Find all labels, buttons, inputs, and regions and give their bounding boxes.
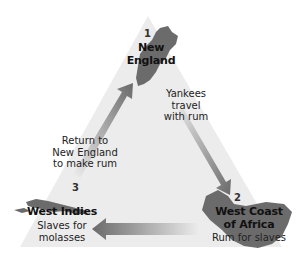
node-3-number: 3 — [72, 182, 79, 194]
node-2-number: 2 — [234, 192, 241, 204]
node-2-name-line1: West Coast — [206, 206, 292, 219]
node-1-name-line2: England — [126, 55, 176, 68]
edge-1-label-line3: with rum — [158, 111, 214, 123]
node-1-name: New England — [126, 42, 176, 67]
node-3-description-line1: Slaves for — [22, 220, 102, 232]
edge-3-label-line1: Return to — [50, 135, 120, 147]
edge-3-label-line2: New England — [50, 147, 120, 159]
triangular-trade-diagram: 1 New England Yankees travel with rum Re… — [0, 0, 304, 261]
node-3-description-line2: molasses — [22, 232, 102, 244]
node-3-name: West Indies — [22, 206, 102, 219]
node-1-number: 1 — [144, 28, 151, 40]
node-2-name: West Coast of Africa — [206, 206, 292, 231]
node-2-description: Rum for slaves — [206, 232, 292, 244]
node-2-name-line2: of Africa — [206, 219, 292, 232]
edge-label-west-indies-to-new-england: Return to New England to make rum — [50, 135, 120, 170]
node-1-name-line1: New — [126, 42, 176, 55]
edge-3-label-line3: to make rum — [50, 158, 120, 170]
edge-1-label-line2: travel — [158, 100, 214, 112]
edge-1-label-line1: Yankees — [158, 88, 214, 100]
edge-label-new-england-to-africa: Yankees travel with rum — [158, 88, 214, 123]
node-3-description: Slaves for molasses — [22, 220, 102, 243]
